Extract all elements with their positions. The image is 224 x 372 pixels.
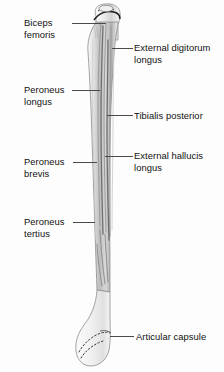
leader-biceps-femoris [72, 23, 106, 24]
label-biceps-femoris: Biceps femoris [24, 17, 55, 40]
leader-tibialis-posterior [107, 115, 133, 116]
label-peroneus-brevis: Peroneus brevis [24, 156, 65, 179]
label-peroneus-tertius: Peroneus tertius [24, 216, 65, 239]
lateral-malleolus [76, 290, 110, 366]
anatomy-figure: Biceps femoris External digitorum longus… [0, 0, 224, 372]
label-tibialis-posterior: Tibialis posterior [134, 110, 203, 122]
label-articular-capsule: Articular capsule [136, 331, 206, 343]
leader-peroneus-longus [72, 90, 100, 91]
leader-articular-capsule [110, 336, 134, 337]
leader-peroneus-tertius [73, 222, 95, 223]
leader-external-hallucis-longus [105, 156, 133, 157]
leader-external-digitorum-longus [112, 48, 133, 49]
label-external-digitorum-longus: External digitorum longus [134, 42, 210, 65]
leader-peroneus-brevis [73, 162, 97, 163]
label-peroneus-longus: Peroneus longus [24, 84, 65, 107]
label-external-hallucis-longus: External hallucis longus [134, 150, 203, 173]
